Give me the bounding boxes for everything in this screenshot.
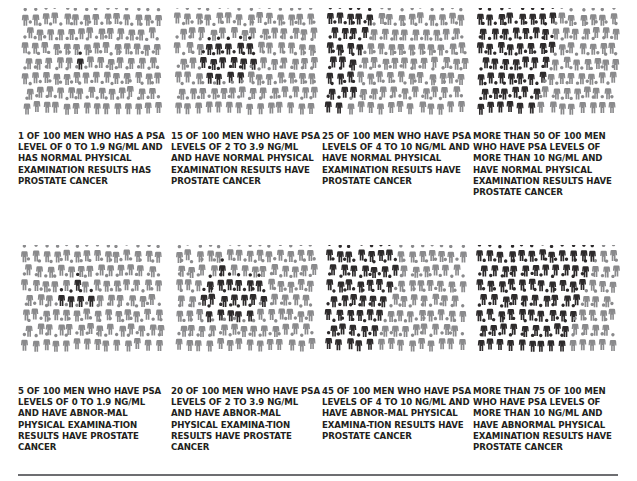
person-icon — [266, 67, 273, 85]
person-icon — [388, 95, 395, 113]
person-icon — [93, 65, 100, 83]
person-icon — [423, 23, 430, 41]
person-icon — [64, 67, 71, 85]
person-icon — [348, 96, 355, 114]
person-icon — [594, 51, 601, 69]
person-icon — [288, 275, 295, 293]
person-icon — [611, 8, 618, 24]
person-icon — [154, 66, 161, 84]
person-icon-highlighted — [502, 52, 509, 70]
person-icon — [266, 8, 273, 24]
person-icon — [449, 8, 456, 24]
panel-caption: 45 of 100 men who have PSA levels of 4 t… — [322, 386, 472, 442]
person-icon — [292, 316, 299, 334]
person-icon — [140, 289, 147, 307]
person-icon — [288, 36, 295, 54]
person-icon — [386, 8, 393, 25]
person-icon — [610, 65, 617, 83]
person-icon-highlighted — [532, 288, 539, 306]
person-icon — [590, 95, 597, 113]
crowd-icon-grid — [473, 245, 623, 355]
person-icon — [286, 302, 293, 320]
person-icon — [259, 259, 266, 277]
person-icon — [307, 274, 314, 292]
person-icon — [33, 334, 40, 352]
person-icon — [460, 274, 467, 292]
person-icon — [388, 304, 395, 322]
person-icon — [219, 21, 226, 39]
crowd-icon-grid — [171, 245, 321, 355]
person-icon-highlighted — [68, 289, 75, 307]
person-icon — [397, 94, 404, 112]
person-icon — [603, 259, 610, 277]
person-icon — [357, 65, 364, 83]
panel-caption: 5 of 100 men who have PSA levels of 0 to… — [18, 386, 168, 453]
person-icon — [236, 8, 243, 25]
person-icon-highlighted — [529, 334, 536, 352]
person-icon — [63, 273, 70, 291]
person-icon-highlighted — [58, 288, 65, 306]
person-icon — [579, 332, 586, 350]
person-icon-highlighted — [481, 259, 488, 277]
person-icon-highlighted — [201, 288, 208, 306]
person-icon-highlighted — [549, 8, 556, 24]
crowd-icon-grid — [18, 8, 168, 118]
person-icon — [579, 95, 586, 113]
person-icon — [407, 304, 414, 322]
person-icon — [231, 20, 238, 38]
person-icon-highlighted — [339, 316, 346, 334]
person-icon-highlighted — [478, 67, 485, 85]
person-icon — [610, 275, 617, 293]
person-icon — [298, 96, 305, 114]
person-icon-highlighted — [337, 8, 344, 23]
person-icon — [563, 20, 570, 38]
person-icon — [246, 97, 253, 115]
person-icon — [409, 334, 416, 352]
person-icon — [155, 95, 162, 113]
person-icon — [458, 94, 465, 112]
person-icon — [271, 52, 278, 70]
person-icon-highlighted — [331, 20, 338, 38]
person-icon — [27, 20, 34, 38]
person-icon-highlighted — [358, 245, 365, 260]
person-icon — [114, 96, 121, 114]
person-icon — [459, 332, 466, 350]
person-icon — [277, 245, 284, 261]
person-icon-highlighted — [537, 334, 544, 352]
person-icon — [429, 8, 436, 26]
person-icon — [450, 37, 457, 55]
person-icon-highlighted — [486, 8, 493, 25]
person-icon-highlighted — [533, 318, 540, 336]
person-icon-highlighted — [371, 318, 378, 336]
person-icon-highlighted — [528, 95, 535, 113]
person-icon — [236, 245, 243, 261]
person-icon — [33, 245, 40, 261]
person-icon-highlighted — [355, 333, 362, 351]
person-icon — [458, 67, 465, 85]
person-icon-highlighted — [88, 289, 95, 307]
person-icon — [443, 50, 450, 68]
person-icon-highlighted — [347, 36, 354, 54]
person-icon — [451, 319, 458, 337]
person-icon-highlighted — [378, 245, 385, 261]
person-icon — [235, 95, 242, 113]
person-icon-highlighted — [521, 79, 528, 97]
person-icon — [86, 259, 93, 277]
person-icon — [149, 259, 156, 277]
person-icon-highlighted — [580, 245, 587, 261]
person-icon — [419, 245, 426, 262]
person-icon — [578, 66, 585, 84]
panel-caption: More than 75 of 100 men who have PSA lev… — [473, 386, 623, 453]
person-icon — [184, 8, 191, 25]
person-icon — [402, 81, 409, 99]
person-icon — [113, 245, 120, 263]
person-icon-highlighted — [528, 67, 535, 85]
person-icon — [402, 319, 409, 337]
person-icon — [558, 66, 565, 84]
panel-caption: 20 of 100 men who have PSA levels of 2 t… — [171, 386, 321, 453]
person-icon-highlighted — [337, 245, 344, 262]
person-icon — [66, 317, 73, 335]
person-icon-highlighted — [350, 287, 357, 305]
person-icon-highlighted — [543, 319, 550, 337]
person-icon-highlighted — [347, 64, 354, 82]
